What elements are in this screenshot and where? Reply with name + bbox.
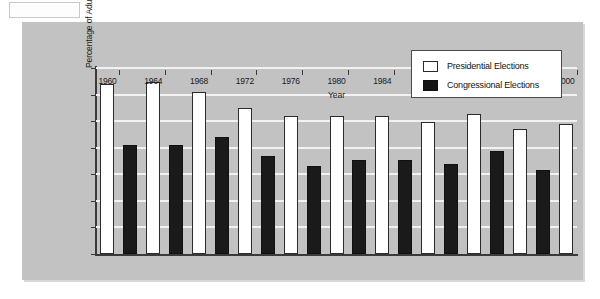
bar-1966 [169, 145, 183, 254]
y-axis-tick [91, 174, 96, 175]
x-axis-tick-label: 1960 [86, 76, 128, 86]
y-axis-tick [91, 227, 96, 228]
y-axis-tick [91, 148, 96, 149]
y-axis-tick [91, 121, 96, 122]
legend-label-presidential: Presidential Elections [447, 61, 529, 71]
y-axis-tick [91, 201, 96, 202]
bar-1996 [513, 129, 527, 254]
x-axis-tick [394, 70, 395, 75]
x-axis-tick-label: 1968 [178, 76, 220, 86]
bar-1990 [444, 164, 458, 254]
bar-2000 [559, 124, 573, 254]
bar-1984 [375, 116, 389, 254]
y-axis-tick [91, 254, 96, 255]
bar-1980 [330, 116, 344, 254]
bar-1964 [146, 82, 160, 254]
bar-1972 [238, 108, 252, 254]
bar-1960 [100, 84, 114, 254]
bar-1962 [123, 145, 137, 254]
x-axis-tick [302, 70, 303, 75]
top-left-empty-box [9, 2, 80, 18]
x-axis-line [95, 254, 578, 256]
x-axis-tick-label: 1972 [224, 76, 266, 86]
bar-1986 [398, 160, 412, 254]
x-axis-tick-label: 1964 [132, 76, 174, 86]
legend-label-congressional: Congressional Elections [447, 80, 539, 90]
y-axis-title: Percentage of Adults Voting [84, 0, 94, 68]
legend-swatch-congressional-icon [423, 80, 438, 91]
y-axis-tick [91, 68, 96, 69]
x-axis-tick [348, 70, 349, 75]
bar-1970 [215, 137, 229, 254]
bar-1982 [352, 160, 366, 254]
legend-swatch-presidential-icon [423, 61, 438, 72]
chart-screenshot: 0%10%20%30%40%50%60%70% 1960196419681972… [0, 0, 600, 299]
chart-legend: Presidential Elections Congressional Ele… [411, 50, 562, 98]
chart-panel: 0%10%20%30%40%50%60%70% 1960196419681972… [22, 22, 583, 280]
bar-1976 [284, 116, 298, 254]
x-axis-tick [211, 70, 212, 75]
bar-1978 [307, 166, 321, 254]
bar-1994 [490, 151, 504, 254]
bar-1992 [467, 114, 481, 254]
legend-item-presidential: Presidential Elections [423, 58, 529, 74]
x-axis-tick-label: 1976 [270, 76, 312, 86]
x-axis-tick-label: 1984 [361, 76, 403, 86]
bar-1974 [261, 156, 275, 254]
x-axis-tick [119, 70, 120, 75]
legend-item-congressional: Congressional Elections [423, 77, 539, 93]
bar-1998 [536, 170, 550, 254]
x-axis-tick [165, 70, 166, 75]
x-axis-tick-label: 1980 [316, 76, 358, 86]
bar-1988 [421, 122, 435, 254]
x-axis-tick [577, 70, 578, 75]
bar-1968 [192, 92, 206, 254]
x-axis-tick [256, 70, 257, 75]
